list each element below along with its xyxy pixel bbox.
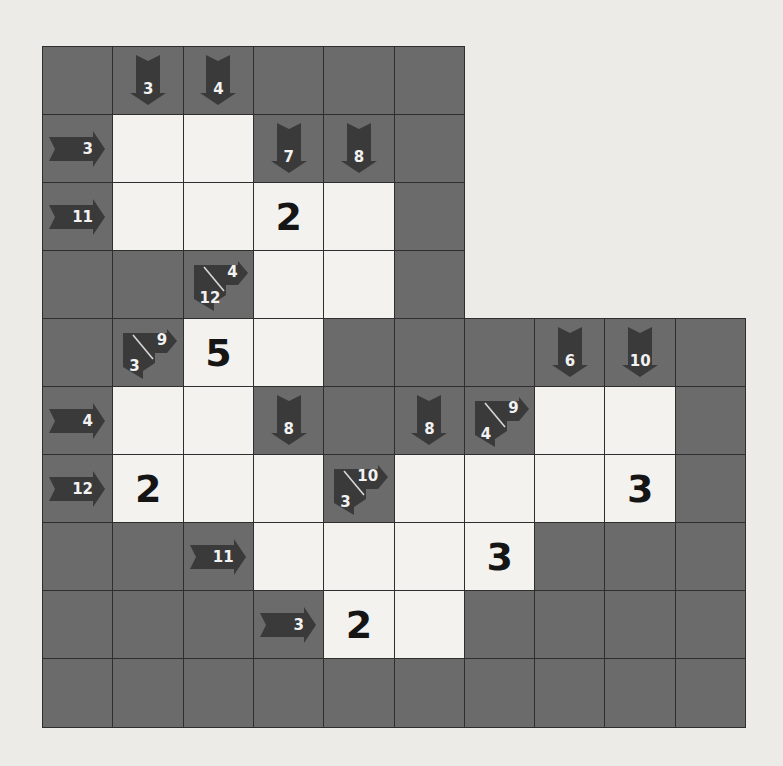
entry-cell[interactable] <box>534 386 606 456</box>
block-cell <box>42 658 114 728</box>
entry-cell[interactable]: 2 <box>253 182 325 252</box>
entry-cell[interactable] <box>394 522 466 592</box>
block-cell <box>675 522 747 592</box>
block-cell <box>112 522 184 592</box>
block-cell <box>42 590 114 660</box>
block-cell <box>675 318 747 388</box>
entry-cell[interactable]: 3 <box>464 522 536 592</box>
down-clue-sum: 6 <box>552 352 588 370</box>
block-cell <box>464 658 536 728</box>
across-clue-sum: 3 <box>293 616 303 634</box>
block-cell <box>604 658 676 728</box>
block-cell <box>675 590 747 660</box>
down-clue-sum: 10 <box>622 352 658 370</box>
down-right-arrow-icon: 412 <box>192 259 248 311</box>
block-cell <box>675 658 747 728</box>
down-arrow-icon: 3 <box>130 53 166 105</box>
entry-cell[interactable] <box>323 250 395 320</box>
down-clue-sum: 8 <box>271 420 307 438</box>
entry-cell[interactable] <box>112 182 184 252</box>
cell-value <box>113 387 183 455</box>
down-arrow-icon: 6 <box>552 325 588 377</box>
cell-value <box>324 251 394 319</box>
entry-cell[interactable] <box>323 522 395 592</box>
entry-cell[interactable] <box>323 182 395 252</box>
across-clue-sum: 9 <box>157 331 167 349</box>
entry-cell[interactable]: 3 <box>604 454 676 524</box>
across-clue-sum: 11 <box>72 208 93 226</box>
entry-cell[interactable] <box>253 454 325 524</box>
entry-cell[interactable] <box>183 114 255 184</box>
clue-cell: 7 <box>253 114 325 184</box>
block-cell <box>394 114 466 184</box>
right-arrow-icon: 11 <box>49 199 105 235</box>
cell-value <box>254 251 324 319</box>
down-arrow-icon: 10 <box>622 325 658 377</box>
block-cell <box>42 318 114 388</box>
block-cell <box>394 658 466 728</box>
entry-cell[interactable] <box>112 386 184 456</box>
block-cell <box>112 590 184 660</box>
clue-cell: 4 <box>183 46 255 116</box>
down-clue-sum: 3 <box>129 357 139 375</box>
down-clue-sum: 3 <box>130 80 166 98</box>
block-cell <box>323 46 395 116</box>
cell-value <box>395 591 465 659</box>
down-clue-sum: 8 <box>341 148 377 166</box>
down-right-arrow-icon: 94 <box>473 395 529 447</box>
across-clue-sum: 10 <box>357 467 378 485</box>
right-arrow-icon: 12 <box>49 471 105 507</box>
clue-cell: 8 <box>323 114 395 184</box>
across-clue-sum: 11 <box>213 548 234 566</box>
block-cell <box>464 590 536 660</box>
entry-cell[interactable] <box>183 386 255 456</box>
block-cell <box>394 46 466 116</box>
down-right-arrow-icon: 103 <box>332 463 388 515</box>
entry-cell[interactable] <box>604 386 676 456</box>
entry-cell[interactable] <box>394 590 466 660</box>
down-right-arrow-icon: 93 <box>121 327 177 379</box>
block-cell <box>323 658 395 728</box>
entry-cell[interactable] <box>464 454 536 524</box>
cell-value <box>465 455 535 523</box>
block-cell <box>394 318 466 388</box>
block-cell <box>534 590 606 660</box>
block-cell <box>675 454 747 524</box>
block-cell <box>183 658 255 728</box>
down-clue-sum: 3 <box>340 493 350 511</box>
cell-value <box>184 115 254 183</box>
cell-value <box>535 387 605 455</box>
block-cell <box>253 46 325 116</box>
clue-cell: 3 <box>112 46 184 116</box>
clue-cell: 412 <box>183 250 255 320</box>
right-arrow-icon: 3 <box>260 607 316 643</box>
entry-cell[interactable]: 5 <box>183 318 255 388</box>
down-arrow-icon: 8 <box>411 393 447 445</box>
cell-value: 2 <box>324 591 394 659</box>
down-clue-sum: 7 <box>271 148 307 166</box>
entry-cell[interactable] <box>183 454 255 524</box>
entry-cell[interactable]: 2 <box>323 590 395 660</box>
cell-value <box>184 455 254 523</box>
cell-value <box>395 455 465 523</box>
entry-cell[interactable] <box>394 454 466 524</box>
cell-value <box>395 523 465 591</box>
entry-cell[interactable] <box>253 250 325 320</box>
block-cell <box>675 386 747 456</box>
block-cell <box>394 182 466 252</box>
entry-cell[interactable] <box>253 318 325 388</box>
clue-cell: 10 <box>604 318 676 388</box>
clue-cell: 4 <box>42 386 114 456</box>
entry-cell[interactable] <box>253 522 325 592</box>
entry-cell[interactable] <box>183 182 255 252</box>
entry-cell[interactable] <box>534 454 606 524</box>
right-arrow-icon: 11 <box>190 539 246 575</box>
cell-value <box>324 183 394 251</box>
clue-cell: 11 <box>183 522 255 592</box>
entry-cell[interactable]: 2 <box>112 454 184 524</box>
block-cell <box>464 318 536 388</box>
cell-value <box>254 319 324 387</box>
down-arrow-icon: 7 <box>271 121 307 173</box>
entry-cell[interactable] <box>112 114 184 184</box>
cell-value: 3 <box>465 523 535 591</box>
